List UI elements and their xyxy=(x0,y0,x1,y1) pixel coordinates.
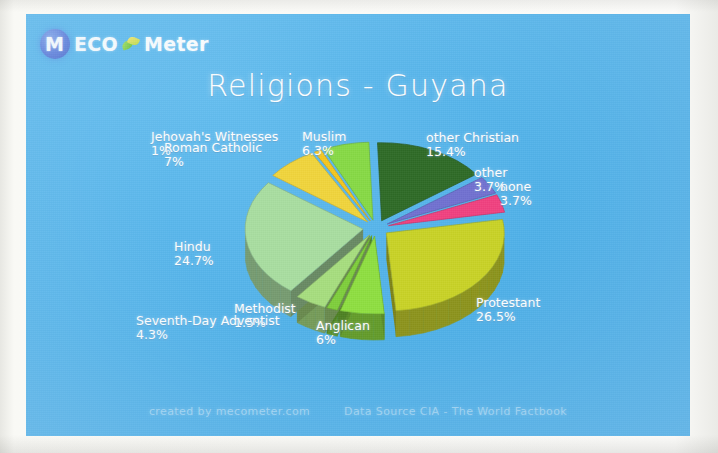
slice-label-seventh-day-adventist: Seventh-Day Adventist 4.3% xyxy=(136,314,280,341)
slice-label-anglican: Anglican 6% xyxy=(316,319,370,346)
photo-frame: M ECO Meter Religions - Guyana Jehovah's… xyxy=(0,0,718,453)
slice-label-hindu: Hindu 24.7% xyxy=(174,240,214,267)
slice-label-text: other Christian xyxy=(426,130,519,145)
slice-label-text: Seventh-Day Adventist xyxy=(136,313,280,328)
slice-label-none: none 3.7% xyxy=(500,180,532,207)
slice-label-roman-catholic: Roman Catholic 7% xyxy=(164,141,262,168)
slice-label-text: Roman Catholic xyxy=(164,140,262,155)
slice-value-text: 26.5% xyxy=(476,310,540,324)
slice-label-text: Hindu xyxy=(174,239,211,254)
slice-label-protestant: Protestant 26.5% xyxy=(476,296,540,323)
slice-label-muslim: Muslim 6.3% xyxy=(302,130,346,157)
chart-card: M ECO Meter Religions - Guyana Jehovah's… xyxy=(26,14,690,436)
slice-label-text: Protestant xyxy=(476,295,540,310)
slice-label-text: Anglican xyxy=(316,318,370,333)
footer-created-by: created by mecometer.com xyxy=(149,405,310,418)
slice-value-text: 15.4% xyxy=(426,145,519,159)
footer-data-source: Data Source CIA - The World Factbook xyxy=(344,405,567,418)
slice-value-text: 24.7% xyxy=(174,254,214,268)
slice-value-text: 7% xyxy=(164,155,262,169)
slice-label-text: none xyxy=(500,179,531,194)
slice-label-text: other xyxy=(474,165,507,180)
slice-value-text: 4.3% xyxy=(136,328,280,342)
chart-footer: created by mecometer.com Data Source CIA… xyxy=(26,405,690,418)
slice-value-text: 3.7% xyxy=(500,194,532,208)
slice-value-text: 6% xyxy=(316,333,370,347)
slice-label-text: Muslim xyxy=(302,129,346,144)
slice-label-other-christian: other Christian 15.4% xyxy=(426,131,519,158)
pie-chart xyxy=(26,14,690,436)
slice-value-text: 6.3% xyxy=(302,144,346,158)
